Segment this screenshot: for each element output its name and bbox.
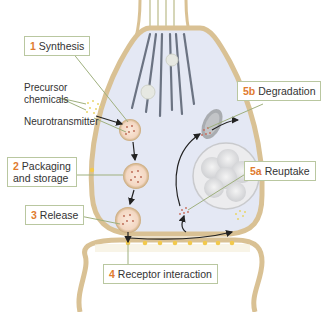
step-number: 4	[109, 268, 115, 280]
precursor-chemicals-label: Precursor chemicals	[24, 82, 68, 106]
step-release-label: 3Release	[25, 205, 84, 225]
synapse-diagram: 1Synthesis 2Packaging and storage 3Relea…	[0, 0, 326, 312]
step-number: 2	[13, 160, 19, 172]
step-number: 5a	[250, 165, 262, 177]
faint-vesicle	[141, 85, 155, 99]
neurotransmitter-label: Neurotransmitter	[24, 116, 98, 128]
step-number: 1	[30, 40, 36, 52]
step-packaging-label: 2Packaging and storage	[7, 157, 77, 187]
transporter-dot	[90, 168, 94, 172]
step-reuptake-label: 5aReuptake	[244, 161, 316, 181]
step-synthesis-label: 1Synthesis	[24, 36, 90, 56]
vesicle-release	[115, 207, 141, 233]
synaptic-cleft	[95, 244, 250, 252]
step-number: 3	[31, 209, 37, 221]
step-degradation-label: 5bDegradation	[237, 81, 321, 101]
vesicle-storage	[123, 163, 149, 189]
step-receptor-interaction-label: 4Receptor interaction	[103, 264, 218, 284]
step-number: 5b	[243, 85, 255, 97]
faint-vesicle	[166, 54, 178, 66]
